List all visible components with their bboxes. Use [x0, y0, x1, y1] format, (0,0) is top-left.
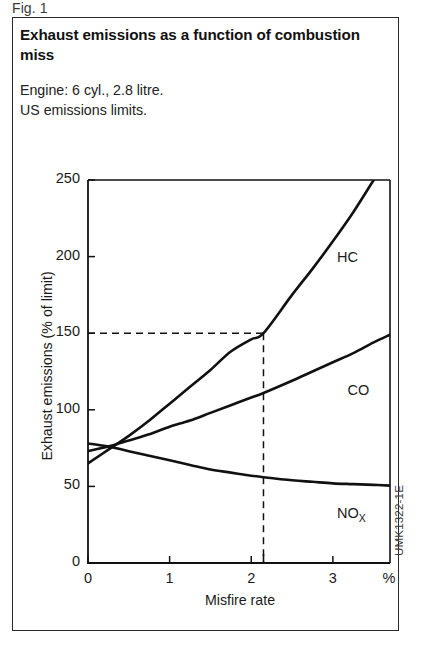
x-tick-label-0: 0: [73, 570, 103, 586]
source-code-label: UMK1322-1E: [393, 485, 405, 556]
series-curve-hc: [88, 180, 374, 463]
series-label-nox: NOX: [337, 505, 366, 524]
x-axis-unit: %: [374, 570, 404, 586]
x-tick-label-3: 3: [318, 570, 348, 586]
y-axis-label: Exhaust emissions (% of limit): [39, 251, 55, 481]
series-curve-nox: [88, 444, 390, 486]
nox-base: NO: [337, 505, 359, 521]
series-label-hc: HC: [337, 249, 358, 265]
nox-subscript: X: [359, 512, 366, 524]
chart-plot-area: 0 50 100 150 200 250 0 1 2 3 % Exhaust e…: [0, 0, 431, 649]
x-tick-label-2: 2: [236, 570, 266, 586]
x-tick-label-1: 1: [155, 570, 185, 586]
series-label-co: CO: [348, 382, 370, 398]
y-tick-label-0: 0: [34, 553, 80, 569]
x-axis-label: Misfire rate: [140, 592, 340, 608]
y-tick-label-250: 250: [34, 170, 80, 186]
